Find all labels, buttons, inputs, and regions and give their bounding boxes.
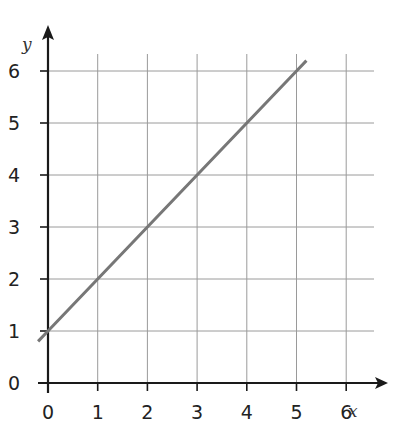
data-line xyxy=(38,61,306,342)
y-tick-label: 1 xyxy=(8,320,20,342)
grid xyxy=(48,54,374,383)
x-tick-label: 4 xyxy=(241,401,253,423)
y-tick-label: 5 xyxy=(8,112,20,134)
axes xyxy=(38,25,388,393)
x-tick-label: 2 xyxy=(141,401,153,423)
x-tick-label: 0 xyxy=(42,401,54,423)
x-tick-label: 5 xyxy=(290,401,302,423)
tick-labels: 01234560123456 xyxy=(8,60,352,423)
x-tick-label: 3 xyxy=(191,401,203,423)
line-chart: 01234560123456 x y xyxy=(0,0,397,444)
x-axis-label: x xyxy=(348,401,358,421)
x-tick-label: 1 xyxy=(92,401,104,423)
y-tick-label: 6 xyxy=(8,60,20,82)
data-series xyxy=(38,61,306,342)
y-tick-label: 0 xyxy=(8,372,20,394)
y-axis-label: y xyxy=(21,34,32,54)
y-tick-label: 2 xyxy=(8,268,20,290)
y-tick-label: 4 xyxy=(8,164,20,186)
y-tick-label: 3 xyxy=(8,216,20,238)
